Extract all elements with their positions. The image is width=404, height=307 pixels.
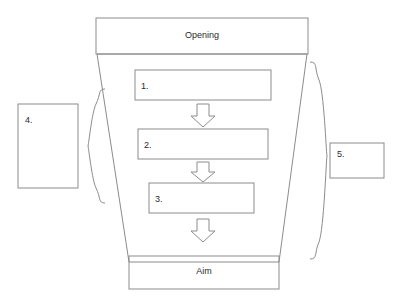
step-3-box[interactable]: [149, 183, 254, 213]
left-side-box-label: 4.: [25, 115, 33, 125]
right-brace-icon: [310, 62, 327, 259]
step-1-box[interactable]: [135, 70, 271, 100]
aim-label: Aim: [129, 266, 279, 276]
diagram-canvas: Opening 1. 2. 3. 4. 5. Aim: [0, 0, 404, 307]
arrow-2-icon: [191, 162, 215, 182]
arrow-1-icon: [191, 104, 215, 127]
arrow-3-icon: [191, 219, 215, 242]
step-1-label: 1.: [141, 81, 149, 91]
step-2-label: 2.: [144, 140, 152, 150]
step-3-label: 3.: [155, 194, 163, 204]
opening-label: Opening: [96, 30, 308, 40]
step-2-box[interactable]: [138, 129, 268, 159]
funnel-shape: [97, 54, 307, 262]
right-side-box-label: 5.: [337, 149, 345, 159]
left-brace-icon: [88, 89, 105, 203]
